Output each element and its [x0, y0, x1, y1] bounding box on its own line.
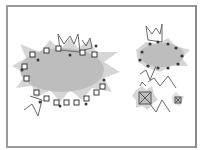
- small-burst-b: [172, 92, 184, 106]
- large-burst-shape: [12, 38, 120, 102]
- small-burst-a: [132, 76, 176, 112]
- illustration: [0, 0, 202, 150]
